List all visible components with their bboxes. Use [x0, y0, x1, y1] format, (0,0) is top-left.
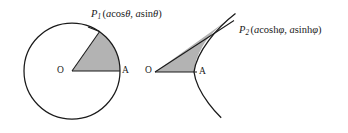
p2-y-function: sinh — [295, 24, 313, 35]
hyperbola-vertex-label-A: A — [199, 67, 206, 77]
circular-sector-group — [24, 23, 120, 119]
p1-paren-close: ) — [158, 8, 162, 19]
hyperbola-center-label-O: O — [145, 66, 152, 76]
p2-point-label: P2(acoshφ, asinhφ) — [239, 25, 322, 37]
p2-paren-close: ) — [318, 24, 322, 35]
p2-x-function: cosh — [259, 24, 278, 35]
circle-center-label-O: O — [57, 66, 64, 76]
hyperbolic-sector-group — [155, 14, 236, 118]
p1-x-function: cos — [111, 8, 125, 19]
math-figure-canvas: P1(acosθ, asinθ) O A O A P2(acoshφ, asin… — [0, 0, 348, 133]
p1-y-function: sin — [141, 8, 153, 19]
p1-point-label: P1(acosθ, asinθ) — [91, 9, 162, 21]
p1-label-subscript: 1 — [97, 13, 101, 21]
figure-vector-graphics — [0, 0, 348, 133]
circular-sector-fill — [72, 32, 120, 71]
circle-vertex-label-A: A — [122, 66, 129, 76]
p2-label-subscript: 2 — [245, 29, 249, 37]
hyperbolic-sector-fill — [155, 21, 226, 72]
